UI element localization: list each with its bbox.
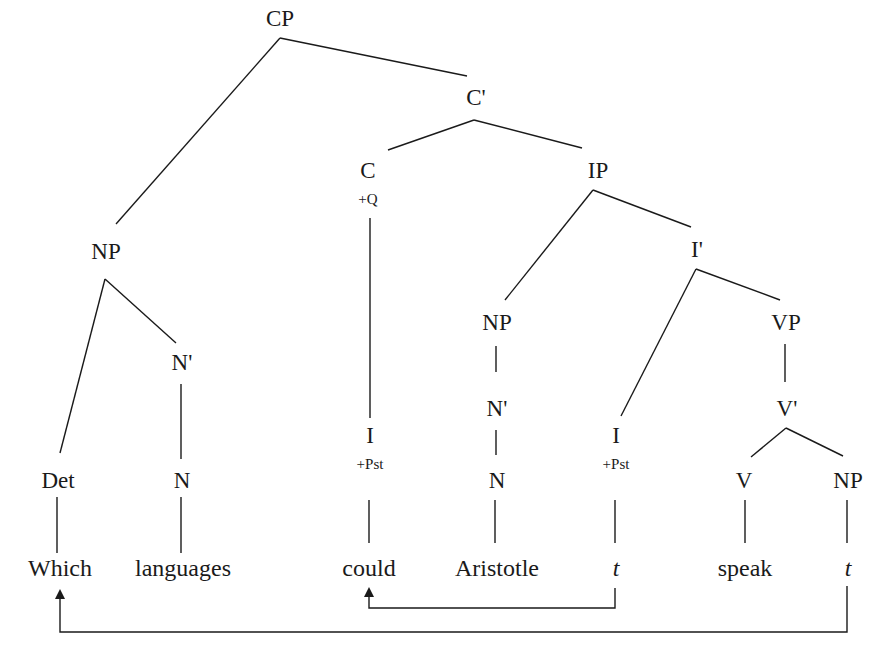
edge-cp-np [116, 38, 280, 224]
leaf-speak: speak [718, 555, 773, 581]
leaf-aristotle: Aristotle [455, 555, 539, 581]
node-vp: VP [771, 310, 800, 335]
edge-cp-cbar [280, 38, 467, 76]
node-c: C [360, 158, 375, 183]
edge-ibar-i [621, 269, 696, 416]
node-i-orig: I [612, 423, 620, 448]
edge-np-det [60, 279, 105, 453]
wh-movement-arrow [60, 586, 847, 632]
leaf-could: could [342, 555, 395, 581]
tree-nodes: CP C' C +Q IP NP I' NP VP N' N' V' I +Ps… [41, 6, 862, 493]
node-n-wh: N [174, 468, 191, 493]
movement-arrows [55, 586, 847, 632]
edge-ip-ibar [593, 190, 691, 227]
node-i-orig-feature: +Pst [603, 456, 631, 472]
head-movement-arrow [369, 588, 615, 608]
edge-cbar-ip [474, 120, 582, 148]
edge-vbar-np [786, 428, 843, 456]
node-c-feature: +Q [358, 191, 377, 207]
node-ip: IP [588, 158, 608, 183]
node-v: V [736, 468, 753, 493]
node-det: Det [41, 468, 75, 493]
node-n-bar-wh: N' [172, 350, 193, 375]
edge-ip-np [505, 190, 593, 300]
node-cp: CP [266, 6, 294, 31]
node-i-moved-feature: +Pst [357, 456, 385, 472]
node-i-moved: I [366, 423, 374, 448]
leaf-trace-np: t [845, 555, 853, 581]
arrowhead-which-icon [55, 589, 65, 599]
node-np-obj: NP [833, 468, 862, 493]
edge-vbar-v [751, 428, 786, 457]
edge-cbar-c [388, 120, 474, 150]
tree-leaves: Which languages could Aristotle t speak … [28, 555, 853, 581]
node-c-bar: C' [466, 85, 486, 110]
node-n-subj: N [489, 468, 506, 493]
arrowhead-could-icon [364, 587, 374, 597]
edge-ibar-vp [696, 269, 780, 300]
node-n-bar-subj: N' [487, 396, 508, 421]
leaf-which: Which [28, 555, 92, 581]
syntax-tree-diagram: CP C' C +Q IP NP I' NP VP N' N' V' I +Ps… [0, 0, 883, 652]
node-i-bar: I' [691, 237, 703, 262]
node-np-wh: NP [91, 239, 120, 264]
edge-np-nbar [105, 279, 176, 343]
node-v-bar: V' [777, 396, 798, 421]
leaf-languages: languages [135, 555, 231, 581]
node-np-subj: NP [482, 310, 511, 335]
leaf-trace-i: t [613, 555, 621, 581]
